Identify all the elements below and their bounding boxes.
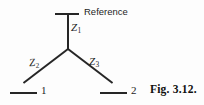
branch-z1-line xyxy=(67,13,69,49)
terminal-1-label: 1 xyxy=(41,84,47,96)
branch-z1-label: Z1 xyxy=(71,21,81,33)
figure-caption: Fig. 3.12. xyxy=(150,83,197,95)
terminal-2-bar xyxy=(100,92,127,94)
impedance-subscript-3: 3 xyxy=(95,60,99,69)
terminal-2-label: 2 xyxy=(131,84,137,96)
terminal-1-bar xyxy=(10,92,37,94)
branch-z2-label: Z2 xyxy=(29,56,40,69)
figure-canvas: Reference Z1 Z2 Z3 1 2 Fig. 3.12. xyxy=(0,0,204,105)
branch-z3-label: Z3 xyxy=(89,55,99,67)
reference-label: Reference xyxy=(84,6,128,17)
impedance-subscript-1: 1 xyxy=(77,26,81,35)
impedance-subscript-2: 2 xyxy=(35,61,39,70)
